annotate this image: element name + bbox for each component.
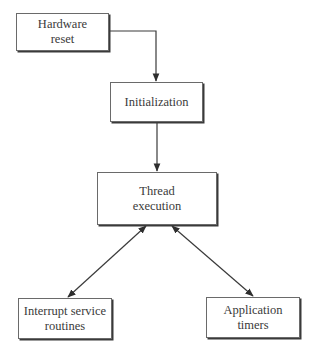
edge-thread-isr bbox=[68, 226, 146, 297]
edge-thread-timers bbox=[172, 226, 253, 296]
node-thread-execution: Thread execution bbox=[97, 172, 217, 225]
node-label: routines bbox=[45, 319, 85, 334]
node-initialization: Initialization bbox=[110, 82, 203, 122]
node-label: execution bbox=[133, 199, 182, 214]
node-label: Interrupt service bbox=[24, 304, 106, 319]
node-application-timers: Application timers bbox=[206, 297, 300, 338]
node-label: Application bbox=[223, 303, 282, 318]
node-hardware-reset: Hardware reset bbox=[16, 13, 109, 51]
node-label: Thread bbox=[139, 184, 174, 199]
node-label: Initialization bbox=[125, 95, 189, 110]
node-label: reset bbox=[51, 32, 75, 47]
edge-reset-to-init bbox=[109, 31, 156, 81]
node-label: timers bbox=[237, 318, 268, 333]
node-label: Hardware bbox=[38, 17, 87, 32]
node-interrupt-service-routines: Interrupt service routines bbox=[18, 298, 112, 339]
